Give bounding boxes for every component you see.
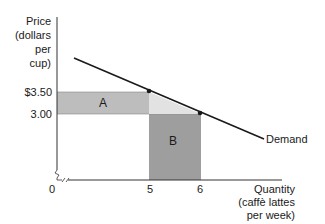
- region-a-label: A: [99, 96, 107, 110]
- y-axis-title-line: cup): [0, 56, 51, 70]
- y-axis-title-line: (dollars: [0, 28, 51, 42]
- y-axis-title-line: per: [0, 42, 51, 56]
- point-6-300: [198, 111, 203, 116]
- y-axis-title: Price (dollars per cup): [0, 14, 51, 70]
- demand-label: Demand: [266, 133, 308, 145]
- axis-break-x: [62, 178, 69, 182]
- x-axis-title-line: per week): [220, 209, 295, 222]
- y-tick-350: $3.50: [0, 86, 52, 98]
- region-b-label: B: [169, 134, 177, 148]
- point-5-350: [147, 89, 152, 94]
- x-axis-title: Quantity (caffè lattes per week): [220, 183, 295, 222]
- y-axis-title-line: Price: [0, 14, 51, 28]
- triangle-region: [149, 92, 201, 114]
- axis-break-y: [55, 170, 62, 180]
- x-tick-6: 6: [190, 183, 210, 195]
- x-axis-title-line: Quantity: [220, 183, 295, 196]
- x-tick-5: 5: [140, 183, 160, 195]
- y-tick-300: 3.00: [0, 108, 52, 120]
- x-tick-0: 0: [42, 183, 62, 195]
- x-axis-title-line: (caffè lattes: [220, 196, 295, 209]
